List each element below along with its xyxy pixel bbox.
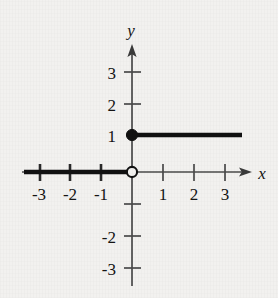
coordinate-plane-svg: y x 3 2 1 -2 -3 -3 -2 -1 1 2 3 — [0, 0, 278, 298]
y-tick-label-1: 1 — [108, 127, 117, 146]
y-axis — [127, 44, 136, 286]
x-tick-label-neg2: -2 — [63, 185, 77, 204]
graph-figure: y x 3 2 1 -2 -3 -3 -2 -1 1 2 3 — [0, 0, 278, 298]
x-tick-label-1: 1 — [159, 185, 168, 204]
y-tick-label-neg3: -3 — [102, 260, 116, 279]
x-tick-label-3: 3 — [221, 185, 230, 204]
x-tick-label-2: 2 — [190, 185, 199, 204]
closed-dot-marker — [126, 129, 137, 140]
y-tick-label-neg2: -2 — [102, 228, 116, 247]
open-circle-marker — [127, 167, 137, 177]
y-tick-label-3: 3 — [108, 64, 117, 83]
x-tick-label-neg1: -1 — [94, 185, 108, 204]
y-axis-label: y — [125, 21, 135, 40]
x-axis-label: x — [257, 164, 266, 183]
x-tick-label-neg3: -3 — [32, 185, 46, 204]
y-tick-label-2: 2 — [108, 96, 117, 115]
